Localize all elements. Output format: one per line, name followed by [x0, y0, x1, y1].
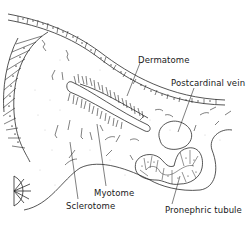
label-myotome: Myotome: [94, 188, 134, 198]
ectoderm-layer: [8, 14, 225, 105]
notochord: [14, 176, 31, 206]
neural-tube: [3, 32, 48, 162]
label-sclerotome: Sclerotome: [66, 201, 115, 211]
pronephric-tubule: [135, 148, 202, 185]
label-postcardinal-vein: Postcardinal vein: [171, 78, 245, 88]
label-pronephric-tubule: Pronephric tubule: [165, 205, 242, 215]
postcardinal-vein: [159, 121, 192, 149]
diagram-canvas: Dermatome Postcardinal vein Myotome Scle…: [0, 0, 249, 225]
label-dermatome: Dermatome: [138, 55, 190, 65]
